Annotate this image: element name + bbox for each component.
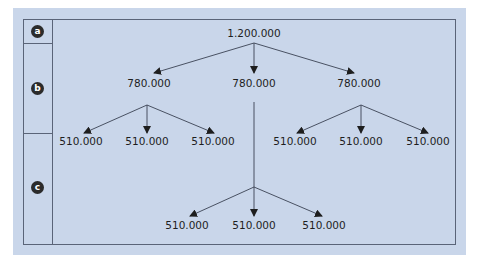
leaf-value-middle-2: 510.000 — [232, 219, 275, 231]
leaf-value-left-3: 510.000 — [191, 135, 234, 147]
leaf-value-right-2: 510.000 — [339, 135, 382, 147]
level-b-value-right: 780.000 — [337, 77, 380, 89]
leaf-value-middle-3: 510.000 — [302, 219, 345, 231]
leaf-value-left-1: 510.000 — [59, 135, 102, 147]
leaf-value-right-1: 510.000 — [273, 135, 316, 147]
level-b-value-left: 780.000 — [127, 77, 170, 89]
leaf-value-left-2: 510.000 — [125, 135, 168, 147]
level-b-value-middle: 780.000 — [232, 77, 275, 89]
leaf-value-right-3: 510.000 — [406, 135, 449, 147]
root-value: 1.200.000 — [227, 27, 280, 39]
leaf-value-middle-1: 510.000 — [165, 219, 208, 231]
